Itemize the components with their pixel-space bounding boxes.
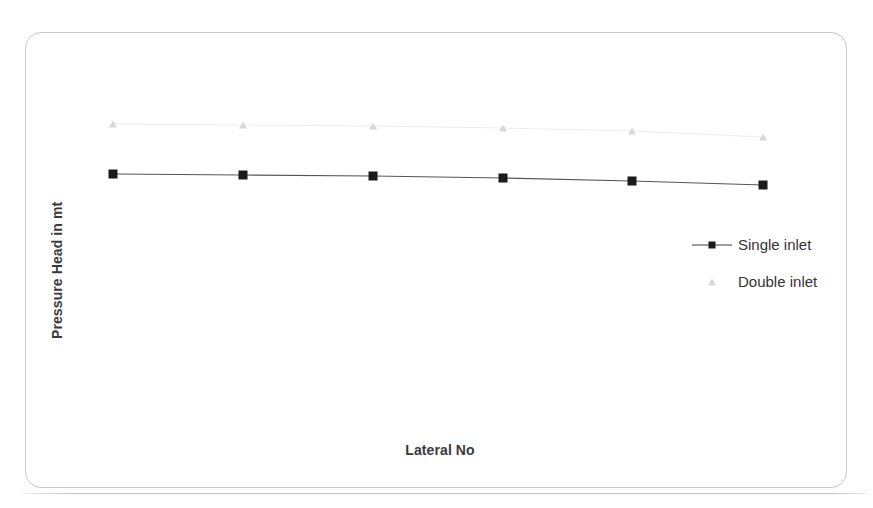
- legend-marker-square-icon: [690, 236, 734, 254]
- x-axis-title: Lateral No: [345, 442, 535, 458]
- legend-item-single-inlet: Single inlet: [690, 226, 840, 263]
- scan-artifact-line: [22, 493, 867, 494]
- legend-marker-triangle-icon: [690, 273, 734, 291]
- y-axis-title: Pressure Head in mt: [44, 175, 70, 365]
- legend-label-single-inlet: Single inlet: [734, 236, 811, 253]
- scanned-page: Pressure Head in mt Lateral No Single in…: [0, 0, 873, 508]
- legend-label-double-inlet: Double inlet: [734, 273, 817, 290]
- chart-legend: Single inlet Double inlet: [690, 226, 840, 300]
- legend-item-double-inlet: Double inlet: [690, 263, 840, 300]
